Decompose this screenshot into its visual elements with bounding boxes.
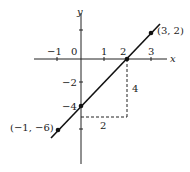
- y-tick-label: −4: [62, 101, 77, 112]
- point-3-2: [149, 31, 154, 36]
- point-neg1-neg6: [56, 128, 61, 133]
- point-2-0: [125, 57, 130, 62]
- x-axis-label: x: [170, 53, 176, 64]
- line-graph: x y −1 0 1 2 3 −2 −4 4 2 (3, 2) (−1, −6): [0, 0, 190, 172]
- x-tick-label: −1: [47, 46, 62, 57]
- point-0-neg4: [79, 104, 84, 109]
- point-label-3-2: (3, 2): [157, 25, 184, 36]
- x-tick-label: 2: [120, 46, 126, 57]
- x-tick-label: 1: [101, 46, 107, 57]
- x-tick-label: 0: [71, 46, 77, 57]
- run-label: 2: [100, 120, 106, 131]
- y-axis-label: y: [76, 6, 83, 17]
- rise-label: 4: [132, 83, 138, 94]
- x-tick-label: 3: [148, 46, 154, 57]
- point-label-neg1-neg6: (−1, −6): [10, 122, 54, 133]
- y-tick-label: −2: [62, 77, 77, 88]
